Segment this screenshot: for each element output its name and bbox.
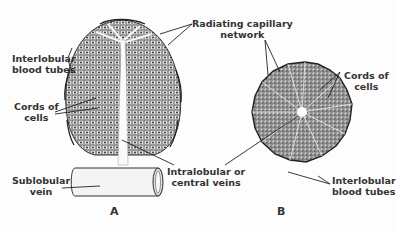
label-sublobular-vein: Sublobular vein <box>12 175 70 197</box>
label-cords-of-cells-a: Cords of cells <box>14 101 59 123</box>
lobule-b <box>252 62 352 162</box>
label-interlobular-blood-tubes-b: Interlobular blood tubes <box>332 175 396 197</box>
label-line: central veins <box>167 177 245 188</box>
label-line: Sublobular <box>12 175 70 186</box>
label-cords-of-cells-b: Cords of cells <box>344 70 389 92</box>
label-line: Intralobular or <box>167 166 245 177</box>
label-line: Cords of <box>14 101 59 112</box>
label-line: Cords of <box>344 70 389 81</box>
panel-caption-a: A <box>110 205 119 218</box>
label-line: Interlobular <box>12 53 76 64</box>
label-line: cells <box>14 112 59 123</box>
label-line: blood tubes <box>12 64 76 75</box>
sublobular-vein <box>71 168 163 196</box>
label-line: Interlobular <box>332 175 396 186</box>
label-line: blood tubes <box>332 186 396 197</box>
lobule-a <box>65 20 182 166</box>
label-radiating-capillary-network: Radiating capillary network <box>192 18 293 40</box>
label-line: network <box>192 29 293 40</box>
label-intralobular-central-veins: Intralobular or central veins <box>167 166 245 188</box>
panel-caption-b: B <box>277 205 285 218</box>
label-line: cells <box>344 81 389 92</box>
label-line: vein <box>12 186 70 197</box>
diagram-liver-lobule: Radiating capillary network Interlobular… <box>0 0 396 230</box>
label-interlobular-blood-tubes-a: Interlobular blood tubes <box>12 53 76 75</box>
label-line: Radiating capillary <box>192 18 293 29</box>
